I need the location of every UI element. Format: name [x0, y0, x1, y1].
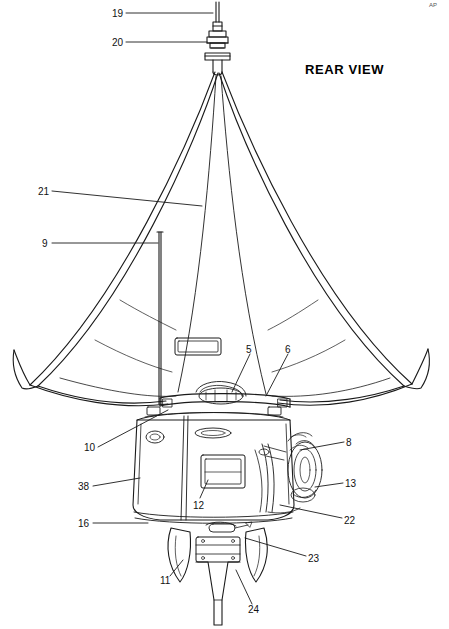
corner-mark: AP — [429, 2, 437, 8]
callout-6: 6 — [285, 344, 291, 355]
callout-10: 10 — [84, 442, 95, 453]
callout-9: 9 — [42, 238, 48, 249]
callout-19: 19 — [112, 8, 123, 19]
callout-22: 22 — [344, 515, 355, 526]
callout-leader-lines — [52, 13, 344, 604]
transom-bracket — [196, 522, 252, 562]
callout-12: 12 — [193, 500, 204, 511]
callout-8: 8 — [346, 437, 352, 448]
sail-canopy — [13, 72, 429, 406]
page-title: REAR VIEW — [305, 62, 384, 77]
callout-5: 5 — [246, 344, 252, 355]
callout-16: 16 — [78, 518, 89, 529]
hull-body — [133, 407, 294, 523]
callout-11: 11 — [160, 575, 170, 586]
vertical-antenna — [157, 232, 163, 404]
patent-figure-rear-view: REAR VIEW AP 19 20 21 9 5 6 10 8 38 13 1… — [0, 0, 449, 629]
callout-20: 20 — [112, 37, 123, 48]
callout-13: 13 — [345, 478, 356, 489]
callout-21: 21 — [38, 186, 49, 197]
callout-23: 23 — [308, 553, 319, 564]
callout-24: 24 — [248, 604, 259, 615]
vessel-line-drawing — [0, 0, 449, 629]
callout-38: 38 — [78, 481, 89, 492]
